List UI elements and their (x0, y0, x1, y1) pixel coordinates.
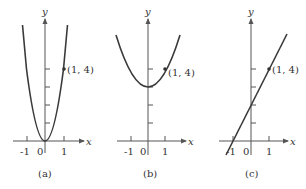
x-axis-label: x (86, 136, 92, 147)
x-tick-0: 0 (37, 146, 43, 157)
x-tick-neg1: -1 (20, 146, 30, 157)
x-tick-0: 0 (243, 146, 249, 157)
caption: (c) (245, 168, 259, 179)
panel-c: (1, 4) x y -1 0 1 (c) (219, 6, 299, 179)
caption: (a) (38, 168, 52, 179)
x-axis-label: x (290, 136, 296, 147)
point-marker (62, 67, 66, 71)
y-axis-label: y (41, 6, 48, 17)
caption: (b) (143, 168, 157, 179)
panel-a: (1, 4) x y -1 0 1 (a) (13, 6, 94, 179)
y-axis-label: y (247, 6, 254, 17)
figure: (1, 4) x y -1 0 1 (a) (1, 4) x y -1 0 1 … (0, 0, 306, 189)
point-label: (1, 4) (272, 64, 299, 75)
y-axis-label: y (144, 6, 151, 17)
x-tick-neg1: -1 (226, 146, 236, 157)
point-label: (1, 4) (67, 64, 94, 75)
x-tick-neg1: -1 (124, 146, 134, 157)
line-curve (226, 34, 287, 155)
point-label: (1, 4) (168, 67, 195, 78)
x-tick-1: 1 (162, 146, 168, 157)
point-marker (163, 67, 167, 71)
x-tick-0: 0 (140, 146, 146, 157)
x-axis-label: x (188, 136, 194, 147)
panel-b: (1, 4) x y -1 0 1 (b) (116, 6, 195, 179)
parabola-curve (27, 25, 68, 141)
point-marker (267, 67, 271, 71)
x-tick-1: 1 (266, 146, 272, 157)
x-tick-1: 1 (61, 146, 67, 157)
